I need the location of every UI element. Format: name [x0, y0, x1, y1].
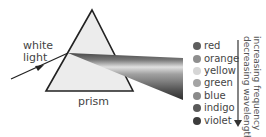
legend-label: yellow	[204, 65, 236, 77]
legend-item-violet: violet	[193, 114, 239, 126]
indigo-dot-icon	[193, 104, 201, 112]
legend-item-green: green	[193, 77, 239, 89]
legend-label: violet	[204, 115, 232, 127]
color-legend: red orange yellow green blue indigo viol…	[193, 40, 239, 127]
legend-item-indigo: indigo	[193, 102, 239, 114]
violet-dot-icon	[193, 117, 201, 125]
legend-item-yellow: yellow	[193, 65, 239, 77]
light-label: light	[23, 52, 53, 64]
yellow-dot-icon	[193, 67, 201, 75]
legend-label: red	[204, 40, 220, 52]
legend-label: orange	[204, 53, 239, 65]
green-dot-icon	[193, 79, 201, 87]
legend-item-blue: blue	[193, 90, 239, 102]
legend-label: green	[204, 77, 233, 89]
orange-dot-icon	[193, 55, 201, 63]
legend-item-orange: orange	[193, 52, 239, 64]
legend-item-red: red	[193, 40, 239, 52]
legend-label: indigo	[204, 102, 235, 114]
decreasing-wavelength-label: decreasing wavelength	[242, 36, 252, 137]
blue-dot-icon	[193, 92, 201, 100]
prism-label: prism	[78, 96, 109, 108]
prism-triangle	[46, 10, 133, 91]
white-light-label: white light	[23, 40, 53, 64]
increasing-frequency-label: increasing frequency	[252, 36, 262, 130]
red-dot-icon	[193, 42, 201, 50]
legend-label: blue	[204, 90, 226, 102]
ray-arrowhead-icon	[35, 65, 44, 71]
